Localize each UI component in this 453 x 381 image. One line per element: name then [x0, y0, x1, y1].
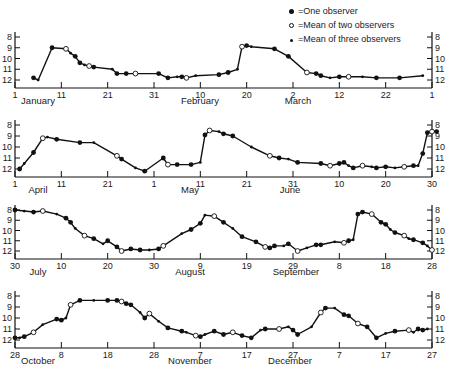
svg-text:10: 10: [56, 261, 66, 271]
svg-text:10: 10: [2, 313, 12, 323]
svg-text:March: March: [285, 95, 311, 106]
svg-text:February: February: [181, 95, 219, 106]
svg-text:20: 20: [381, 179, 391, 189]
svg-text:8: 8: [7, 291, 12, 301]
svg-text:8: 8: [435, 120, 440, 130]
svg-text:10: 10: [334, 179, 344, 189]
svg-text:11: 11: [3, 236, 12, 246]
small-dot-icon: [290, 39, 293, 42]
legend-label: =One observer: [298, 4, 358, 18]
svg-text:11: 11: [435, 236, 444, 246]
svg-text:10: 10: [435, 54, 445, 64]
svg-text:1: 1: [12, 179, 17, 189]
svg-text:11: 11: [3, 153, 12, 163]
svg-text:9: 9: [435, 302, 440, 312]
svg-text:May: May: [181, 184, 199, 195]
svg-text:1: 1: [151, 179, 156, 189]
svg-text:10: 10: [2, 226, 12, 236]
svg-text:October: October: [21, 355, 55, 366]
svg-text:December: December: [268, 355, 312, 366]
svg-text:8: 8: [7, 205, 12, 215]
svg-text:30: 30: [427, 179, 437, 189]
legend: =One observer =Mean of two observers =Me…: [286, 4, 401, 46]
svg-text:22: 22: [381, 90, 391, 100]
panel-4: 889910101111121228818287172771727October…: [2, 291, 445, 366]
svg-text:8: 8: [435, 291, 440, 301]
svg-text:11: 11: [3, 64, 12, 74]
svg-text:12: 12: [2, 335, 12, 345]
svg-text:17: 17: [381, 350, 391, 360]
svg-text:12: 12: [2, 164, 12, 174]
svg-text:August: August: [175, 266, 205, 277]
svg-text:20: 20: [242, 90, 252, 100]
svg-text:12: 12: [435, 335, 445, 345]
svg-text:10: 10: [2, 142, 12, 152]
svg-text:21: 21: [103, 90, 113, 100]
svg-text:11: 11: [57, 90, 66, 100]
svg-text:June: June: [280, 184, 301, 195]
legend-two-observers: =Mean of two observers: [286, 18, 401, 32]
svg-text:8: 8: [435, 205, 440, 215]
svg-text:12: 12: [435, 246, 445, 256]
svg-text:8: 8: [7, 32, 12, 42]
svg-text:November: November: [168, 355, 212, 366]
svg-text:9: 9: [7, 43, 12, 53]
svg-text:18: 18: [381, 261, 391, 271]
svg-text:27: 27: [427, 350, 437, 360]
svg-text:12: 12: [2, 75, 12, 85]
svg-text:9: 9: [7, 302, 12, 312]
svg-text:7: 7: [337, 350, 342, 360]
svg-text:17: 17: [242, 350, 252, 360]
open-circle-icon: [289, 23, 294, 28]
svg-text:18: 18: [103, 350, 113, 360]
svg-text:19: 19: [242, 261, 252, 271]
legend-one-observer: =One observer: [286, 4, 401, 18]
svg-text:January: January: [21, 95, 55, 106]
svg-text:April: April: [28, 184, 47, 195]
svg-text:12: 12: [435, 75, 445, 85]
svg-text:8: 8: [59, 350, 64, 360]
svg-text:1: 1: [429, 90, 434, 100]
svg-text:11: 11: [435, 64, 444, 74]
svg-text:9: 9: [7, 131, 12, 141]
svg-text:28: 28: [10, 350, 20, 360]
svg-text:12: 12: [435, 164, 445, 174]
svg-text:8: 8: [7, 120, 12, 130]
svg-text:12: 12: [334, 90, 344, 100]
svg-text:10: 10: [435, 226, 445, 236]
svg-text:10: 10: [2, 54, 12, 64]
legend-three-observers: =Mean of three observers: [286, 32, 401, 46]
svg-text:11: 11: [57, 179, 66, 189]
svg-text:30: 30: [10, 261, 20, 271]
svg-text:September: September: [273, 266, 319, 277]
svg-text:9: 9: [435, 43, 440, 53]
legend-label: =Mean of two observers: [298, 18, 394, 32]
panel-2: 8899101011111212111211112131102030AprilM…: [2, 120, 445, 195]
svg-text:28: 28: [427, 261, 437, 271]
svg-text:11: 11: [3, 324, 12, 334]
filled-dot-icon: [289, 9, 294, 14]
svg-text:28: 28: [149, 350, 159, 360]
svg-text:11: 11: [435, 153, 444, 163]
svg-text:12: 12: [2, 246, 12, 256]
svg-text:9: 9: [435, 215, 440, 225]
svg-text:11: 11: [435, 324, 444, 334]
svg-text:21: 21: [242, 179, 252, 189]
legend-label: =Mean of three observers: [298, 32, 401, 46]
seasonal-chart: 889910101111121211121311020212221January…: [0, 0, 453, 381]
svg-text:30: 30: [149, 261, 159, 271]
svg-text:31: 31: [149, 90, 159, 100]
svg-text:July: July: [30, 266, 47, 277]
svg-text:9: 9: [7, 215, 12, 225]
svg-text:21: 21: [103, 179, 113, 189]
svg-text:10: 10: [435, 313, 445, 323]
svg-text:10: 10: [435, 142, 445, 152]
svg-text:8: 8: [435, 32, 440, 42]
svg-text:1: 1: [12, 90, 17, 100]
svg-text:8: 8: [337, 261, 342, 271]
svg-text:20: 20: [103, 261, 113, 271]
panel-3: 8899101011111212301020309192981828JulyAu…: [2, 205, 445, 277]
